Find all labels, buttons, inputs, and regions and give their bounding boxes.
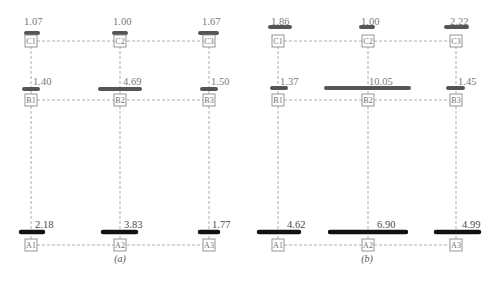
- value-label-a3: 4.99: [462, 219, 480, 230]
- panel-caption: (b): [361, 253, 373, 265]
- value-label-b2: 4.69: [123, 76, 141, 87]
- panel-caption: (a): [114, 253, 126, 265]
- node-label: A3: [204, 241, 214, 250]
- value-label-b1: 1.40: [33, 76, 51, 87]
- node-label: C1: [26, 37, 35, 46]
- node-label: C2: [363, 37, 372, 46]
- node-label: C3: [451, 37, 460, 46]
- value-label-c2: 1.00: [361, 16, 379, 27]
- node-label: C1: [273, 37, 282, 46]
- node-label: C2: [115, 37, 124, 46]
- value-label-c1: 1.07: [24, 16, 42, 27]
- node-label: B3: [451, 96, 460, 105]
- value-label-b3: 1.50: [211, 76, 229, 87]
- value-label-a1: 2.18: [35, 219, 53, 230]
- value-label-a1: 4.62: [287, 219, 305, 230]
- node-label: B1: [26, 96, 35, 105]
- node-label: B1: [273, 96, 282, 105]
- value-label-b3: 1.45: [458, 76, 476, 87]
- node-label: B2: [363, 96, 372, 105]
- panel-b: 1.861.002.221.3710.051.454.626.904.99C1C…: [259, 16, 480, 265]
- value-label-b2: 10.05: [369, 76, 393, 87]
- value-label-c3: 1.67: [202, 16, 220, 27]
- value-label-c3: 2.22: [450, 16, 468, 27]
- node-label: B3: [204, 96, 213, 105]
- node-label: A1: [273, 241, 283, 250]
- value-label-c1: 1.86: [271, 16, 289, 27]
- value-label-a3: 1.77: [212, 219, 230, 230]
- node-label: A3: [451, 241, 461, 250]
- value-label-a2: 3.83: [124, 219, 142, 230]
- node-label: A2: [115, 241, 125, 250]
- node-label: C3: [204, 37, 213, 46]
- value-label-a2: 6.90: [377, 219, 395, 230]
- panel-a: 1.071.001.671.404.691.502.183.831.77C1C2…: [21, 16, 230, 265]
- value-label-c2: 1.00: [113, 16, 131, 27]
- value-label-b1: 1.37: [280, 76, 298, 87]
- node-label: A1: [26, 241, 36, 250]
- node-label: B2: [115, 96, 124, 105]
- node-label: A2: [363, 241, 373, 250]
- structural-diagram: 1.071.001.671.404.691.502.183.831.77C1C2…: [0, 0, 498, 281]
